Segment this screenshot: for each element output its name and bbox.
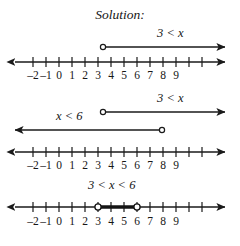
axis-tick-labels-2: –2–10123456789 [0,160,240,176]
axis-tick-label: 8 [160,216,166,228]
open-circle-endpoint-at-3-2 [100,109,105,114]
axis-tick-label: –1 [40,216,52,228]
axis-tick-label: 0 [56,216,62,228]
axis-tick-label: 6 [134,160,140,172]
solution-figure: Solution: 3 < x 3 < x x < 6 3 < x < 6 –2… [0,0,240,246]
inequality-label-x-less-than-6: x < 6 [56,110,82,123]
axis-tick-labels-3: –2–10123456789 [0,216,240,232]
axis-tick-label: 2 [82,160,88,172]
axis-tick-label: 7 [147,70,153,82]
panel-2-ray-x-less-than-6 [15,127,165,132]
open-circle-endpoint-at-3-3 [95,204,101,210]
axis-tick-label: 0 [56,160,62,172]
number-line-1 [15,57,225,67]
axis-tick-label: 9 [173,216,179,228]
inequality-label-3-less-than-x: 3 < x [157,27,183,40]
axis-tick-label: –2 [27,216,39,228]
axis-tick-label: 3 [95,160,101,172]
axis-tick-label: –2 [27,160,39,172]
inequality-label-3-less-than-x-2: 3 < x [157,92,183,105]
number-line-3 [15,202,225,212]
open-circle-endpoint-at-3 [100,44,105,49]
axis-tick-label: 9 [173,70,179,82]
axis-tick-label: 6 [134,70,140,82]
number-line-2 [15,147,225,157]
axis-tick-label: 8 [160,160,166,172]
panel-2-ray-3-less-than-x [100,109,225,114]
axis-tick-label: –2 [27,70,39,82]
axis-tick-label: 2 [82,70,88,82]
axis-tick-label: –1 [40,70,52,82]
axis-tick-label: 0 [56,70,62,82]
axis-tick-label: 7 [147,160,153,172]
axis-tick-label: 7 [147,216,153,228]
number-line-diagram [0,0,240,246]
axis-tick-label: –1 [40,160,52,172]
axis-tick-label: 4 [108,216,114,228]
axis-tick-label: 5 [121,70,127,82]
axis-tick-label: 2 [82,216,88,228]
axis-tick-label: 6 [134,216,140,228]
axis-tick-label: 4 [108,70,114,82]
axis-tick-label: 5 [121,160,127,172]
axis-tick-label: 9 [173,160,179,172]
axis-tick-label: 3 [95,70,101,82]
open-circle-endpoint-at-6-3 [134,204,140,210]
axis-tick-label: 5 [121,216,127,228]
panel-1-ray-3-less-than-x [100,44,225,49]
axis-tick-label: 1 [69,216,75,228]
axis-tick-label: 1 [69,70,75,82]
open-circle-endpoint-at-6 [159,127,164,132]
axis-tick-label: 8 [160,70,166,82]
axis-tick-label: 1 [69,160,75,172]
axis-tick-label: 3 [95,216,101,228]
page-title: Solution: [0,8,240,22]
inequality-label-compound: 3 < x < 6 [88,179,135,192]
axis-tick-label: 4 [108,160,114,172]
axis-tick-labels-1: –2–10123456789 [0,70,240,86]
